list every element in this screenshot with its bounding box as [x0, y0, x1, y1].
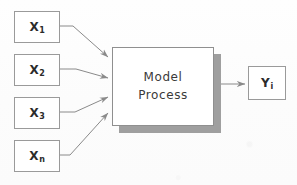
input-node-x1-label: X1 [29, 21, 44, 33]
input-node-xn-label: Xn [29, 150, 44, 162]
process-box[interactable]: Model Process [112, 47, 214, 126]
input-node-x3-label: X3 [29, 107, 44, 119]
input-node-xn[interactable]: Xn [14, 140, 60, 172]
connector-xn-to-process [60, 113, 108, 155]
process-box-line-2: Process [138, 87, 188, 104]
connector-x1-to-process [60, 26, 108, 57]
output-node-yi[interactable]: Yi [248, 66, 286, 100]
input-node-x3[interactable]: X3 [14, 97, 60, 129]
connector-x2-to-process [60, 69, 108, 78]
input-node-x2-label: X2 [29, 64, 44, 76]
input-node-x2[interactable]: X2 [14, 54, 60, 86]
input-node-x1[interactable]: X1 [14, 11, 60, 43]
connector-x3-to-process [60, 97, 108, 112]
diagram-canvas: X1 X2 X3 Xn Model Process Yi [0, 0, 297, 185]
output-node-yi-label: Yi [261, 77, 273, 89]
process-box-line-1: Model [143, 69, 182, 86]
